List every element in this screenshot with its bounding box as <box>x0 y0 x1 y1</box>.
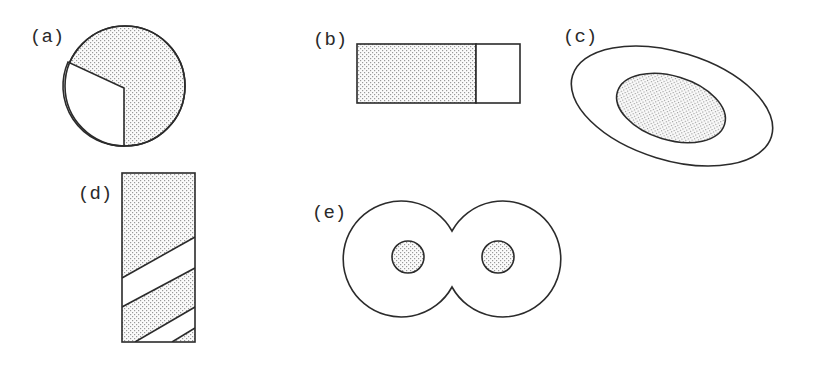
figure-a-pie <box>63 26 185 146</box>
figure-e-right-inner-circle <box>482 241 514 273</box>
figure-e-left-inner-circle <box>392 241 424 273</box>
figure-b-unshaded-part <box>476 44 520 103</box>
figure-b-label: (b) <box>313 31 347 50</box>
figure-d-striped-rectangle <box>122 173 195 342</box>
figure-e-label: (e) <box>312 204 346 223</box>
figure-b-shaded-part <box>357 44 476 103</box>
figure-a-label: (a) <box>30 28 64 47</box>
diagram-canvas <box>0 0 814 367</box>
figures-svg <box>0 0 814 367</box>
figure-c-label: (c) <box>563 28 597 47</box>
figure-e-double-circle <box>343 201 561 317</box>
figure-d-label: (d) <box>78 185 112 204</box>
figure-b-rectangle <box>357 44 520 103</box>
figure-c-inner-ellipse <box>608 61 734 155</box>
figure-c-ellipses <box>557 24 787 188</box>
figure-e-outline <box>343 201 561 317</box>
